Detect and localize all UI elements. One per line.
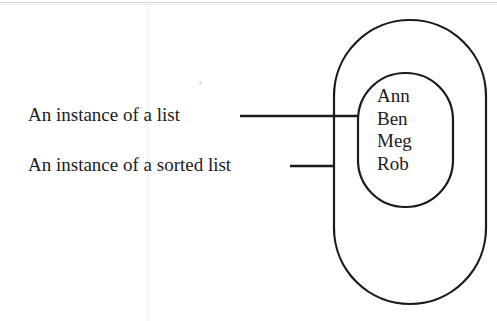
diagram-canvas: An instance of a list An instance of a s… [0,0,497,321]
list-item: Meg [377,130,412,153]
list-item: Ann [377,85,412,108]
annotation-label-sorted-list: An instance of a sorted list [28,154,231,176]
list-item: Rob [377,153,412,176]
list-elements: Ann Ben Meg Rob [377,85,412,175]
list-item: Ben [377,108,412,131]
annotation-label-list: An instance of a list [28,104,180,126]
